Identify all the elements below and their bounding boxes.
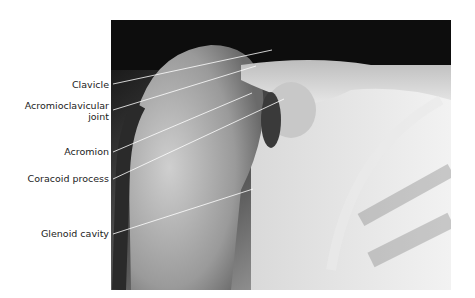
xray-image bbox=[111, 20, 451, 290]
label-clavicle: Clavicle bbox=[72, 79, 109, 90]
label-line-1: Acromioclavicular bbox=[25, 100, 109, 111]
label-coracoid-process: Coracoid process bbox=[28, 173, 109, 184]
label-acromion: Acromion bbox=[64, 146, 109, 157]
label-glenoid-cavity: Glenoid cavity bbox=[41, 228, 109, 239]
label-acromioclavicular-joint: Acromioclavicular joint bbox=[25, 100, 109, 122]
label-line-2: joint bbox=[25, 111, 109, 122]
xray-rendering bbox=[111, 20, 451, 290]
